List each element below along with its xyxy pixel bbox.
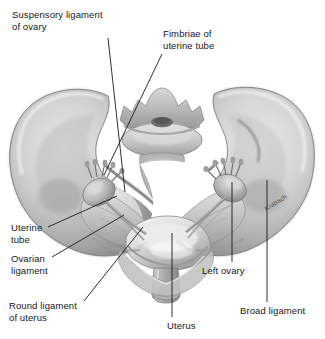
leader-round-ligament [84, 227, 143, 301]
leader-uterine-tube [48, 196, 117, 227]
label-uterus: Uterus [167, 320, 196, 332]
label-ovarian-ligament: Ovarian ligament [11, 253, 48, 276]
label-round-ligament-of-uterus: Round ligament of uterus [9, 300, 77, 323]
leader-suspensory-ligament [108, 38, 125, 192]
label-left-ovary: Left ovary [202, 265, 245, 277]
label-suspensory-ligament-of-ovary: Suspensory ligament of ovary [12, 9, 103, 32]
leader-ovarian-ligament [52, 215, 124, 257]
label-broad-ligament: Broad ligament [240, 305, 305, 317]
anatomy-figure: Suspensory ligament of ovary Fimbriae of… [0, 0, 325, 339]
leader-fimbriae [104, 54, 162, 175]
label-fimbriae-of-uterine-tube: Fimbriae of uterine tube [163, 28, 214, 51]
label-uterine-tube: Uterine tube [11, 222, 42, 245]
